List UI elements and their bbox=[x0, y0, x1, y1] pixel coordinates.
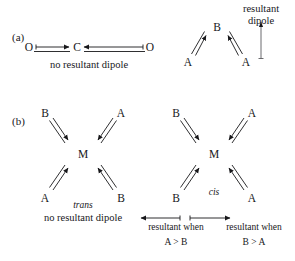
atom-c-center: C bbox=[73, 42, 81, 54]
cis-atom-top-left: B bbox=[172, 108, 180, 120]
trans-center-atom-m: M bbox=[78, 149, 88, 161]
atom-a-bottom-left: A bbox=[184, 57, 192, 69]
trans-atom-top-left: B bbox=[41, 108, 49, 120]
atom-b-apex: B bbox=[213, 22, 221, 34]
cis-atom-bottom-right: A bbox=[248, 193, 256, 205]
caption-no-resultant-dipole-linear: no resultant dipole bbox=[50, 60, 128, 71]
cis-center-atom-m: M bbox=[209, 149, 219, 161]
resultant-dipole-label-line1: resultant bbox=[243, 4, 279, 15]
part-label-a: (a) bbox=[12, 32, 24, 43]
atom-a-bottom-right: A bbox=[242, 57, 250, 69]
resultant-a-greater-b-line1: resultant when bbox=[148, 223, 204, 233]
resultant-annotation-arrows bbox=[141, 216, 230, 221]
part-label-b: (b) bbox=[12, 116, 25, 127]
resultant-b-greater-a-line2: B > A bbox=[243, 238, 266, 248]
trans-atom-bottom-left: A bbox=[41, 193, 49, 205]
resultant-dipole-label-line2: dipole bbox=[248, 16, 274, 27]
caption-no-resultant-dipole-trans: no resultant dipole bbox=[44, 213, 122, 224]
trans-atom-bottom-right: B bbox=[117, 193, 125, 205]
atom-o-left: O bbox=[25, 42, 33, 54]
resultant-b-greater-a-line1: resultant when bbox=[226, 223, 282, 233]
chemistry-dipole-figure: (a) O C O no resultant dipole B A A resu… bbox=[0, 0, 295, 261]
isomer-label-trans: trans bbox=[73, 201, 93, 211]
isomer-label-cis: cis bbox=[209, 188, 220, 198]
trans-atom-top-right: A bbox=[117, 108, 125, 120]
linear-co2-bonds bbox=[34, 45, 145, 52]
cis-atom-bottom-left: B bbox=[172, 193, 180, 205]
cis-atom-top-right: A bbox=[248, 108, 256, 120]
bent-molecule-bonds bbox=[192, 22, 264, 59]
atom-o-right: O bbox=[146, 42, 154, 54]
resultant-a-greater-b-line2: A > B bbox=[165, 238, 188, 248]
